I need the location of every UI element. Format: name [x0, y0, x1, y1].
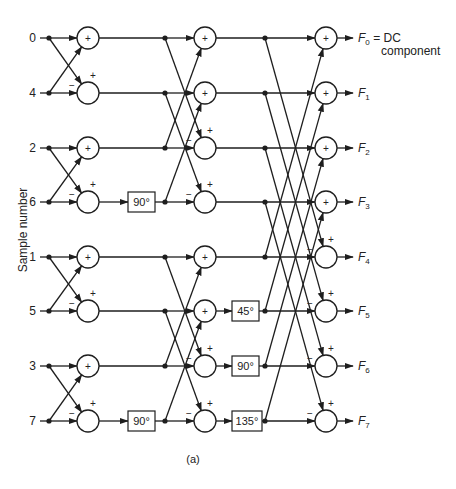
plus-sign: +	[90, 70, 96, 81]
twiddle-label: 45°	[237, 305, 254, 317]
minus-sign: −	[69, 80, 75, 91]
cross-path	[49, 366, 82, 412]
output-label-F1: F1	[358, 86, 370, 102]
branch-dot	[46, 363, 51, 368]
branch-dot	[262, 145, 267, 150]
plus-sign: +	[323, 88, 329, 99]
branch-dot	[262, 90, 267, 95]
minus-sign: −	[307, 408, 313, 419]
input-label-6: 6	[29, 195, 36, 209]
plus-sign: +	[207, 179, 213, 190]
twiddle-label: 135°	[236, 415, 259, 427]
cross-path	[265, 49, 323, 257]
branch-dot	[46, 35, 51, 40]
branch-dot	[46, 90, 51, 95]
minus-sign: −	[186, 135, 192, 146]
plus-sign: +	[85, 33, 91, 44]
branch-dot	[162, 418, 167, 423]
input-label-7: 7	[29, 414, 36, 428]
plus-sign: +	[207, 125, 213, 136]
cross-path	[265, 213, 323, 421]
cross-path	[49, 257, 82, 302]
y-axis-label: Sample number	[16, 188, 30, 273]
fft-butterfly-diagram: 90°90°45°90°135° ++−++−++−++−+++−+−+++−+…	[0, 0, 456, 489]
cross-path	[265, 104, 323, 311]
output-label-F5: F5	[358, 304, 370, 320]
cross-path	[49, 157, 82, 202]
minus-sign: −	[69, 189, 75, 200]
twiddle-label: 90°	[237, 360, 254, 372]
sum-circle	[77, 410, 99, 432]
summing-junctions: ++−++−++−++−+++−+−+++−+−+++++−+−+−+−	[69, 27, 337, 432]
plus-sign: +	[202, 33, 208, 44]
branch-dot	[46, 308, 51, 313]
branch-dot	[162, 35, 167, 40]
output-label-F2: F2	[358, 141, 370, 157]
plus-sign: +	[207, 343, 213, 354]
branch-dot	[262, 35, 267, 40]
plus-sign: +	[207, 398, 213, 409]
plus-sign: +	[90, 398, 96, 409]
sum-circle	[315, 355, 337, 377]
branch-dot	[46, 418, 51, 423]
plus-sign: +	[85, 252, 91, 263]
branch-dot	[162, 308, 167, 313]
twiddle-label: 90°	[133, 196, 150, 208]
minus-sign: −	[307, 353, 313, 364]
plus-sign: +	[328, 343, 334, 354]
sum-circle	[315, 410, 337, 432]
minus-sign: −	[186, 408, 192, 419]
minus-sign: −	[307, 298, 313, 309]
minus-sign: −	[69, 298, 75, 309]
plus-sign: +	[328, 234, 334, 245]
input-label-5: 5	[29, 304, 36, 318]
sum-circle	[315, 246, 337, 268]
sum-circle	[77, 191, 99, 213]
branch-dot	[46, 145, 51, 150]
twiddle-label: 90°	[133, 415, 150, 427]
branch-dot	[162, 145, 167, 150]
sum-circle	[77, 300, 99, 322]
minus-sign: −	[307, 244, 313, 255]
plus-sign: +	[85, 143, 91, 154]
branch-dot	[162, 90, 167, 95]
sum-circle	[194, 410, 216, 432]
branch-dot	[162, 254, 167, 259]
input-label-0: 0	[29, 31, 36, 45]
cross-path	[49, 266, 82, 311]
branch-dot	[162, 199, 167, 204]
plus-sign: +	[328, 398, 334, 409]
cross-path	[265, 93, 323, 300]
cross-path	[265, 202, 323, 410]
output-label-F6: F6	[358, 359, 370, 375]
branch-dot	[162, 363, 167, 368]
sum-circle	[194, 137, 216, 159]
cross-path	[265, 38, 323, 246]
branch-dot	[46, 199, 51, 204]
sum-circle	[194, 355, 216, 377]
output-label-F3: F3	[358, 195, 370, 211]
sum-circle	[315, 300, 337, 322]
plus-sign: +	[328, 288, 334, 299]
output-label-F7: F7	[358, 414, 370, 430]
plus-sign: +	[323, 197, 329, 208]
input-label-3: 3	[29, 359, 36, 373]
plus-sign: +	[202, 306, 208, 317]
input-label-1: 1	[29, 250, 36, 264]
branch-dot	[46, 254, 51, 259]
branch-dot	[262, 308, 267, 313]
dc-component-label: component	[381, 44, 441, 58]
cross-path	[49, 47, 82, 93]
branch-dot	[262, 199, 267, 204]
cross-path	[265, 159, 323, 366]
branch-dot	[262, 363, 267, 368]
plus-sign: +	[323, 33, 329, 44]
plus-sign: +	[202, 88, 208, 99]
cross-path	[49, 148, 82, 193]
branch-dot	[262, 254, 267, 259]
minus-sign: −	[186, 353, 192, 364]
plus-sign: +	[90, 179, 96, 190]
branch-dot	[262, 418, 267, 423]
input-label-2: 2	[29, 141, 36, 155]
output-label-F4: F4	[358, 250, 370, 266]
